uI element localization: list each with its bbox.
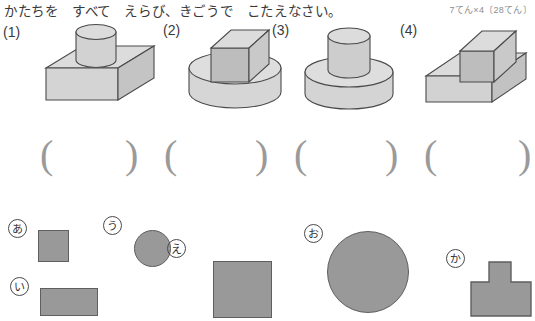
answer-paren-close-1: ) — [125, 135, 138, 175]
answer-paren-open-3: ( — [294, 135, 307, 175]
solid-figure-4-box-on-box — [420, 20, 535, 116]
answer-paren-close-2: ) — [255, 135, 268, 175]
solid-figure-1-cylinder-on-box — [34, 20, 164, 114]
choice-shape-a-square — [38, 230, 69, 262]
choice-label-i: い — [10, 277, 29, 296]
choice-label-e: え — [167, 239, 186, 258]
choice-shape-o-circle — [327, 231, 409, 313]
choice-shape-ka-tee — [468, 260, 533, 321]
score-annotation: 7てん×4〔28てん〕 — [449, 3, 532, 16]
choice-label-ka: か — [446, 249, 465, 268]
choice-shape-u-circle — [134, 230, 171, 267]
choice-shape-e-square — [213, 261, 272, 318]
header: かたちを すべて えらび、きごうで こたえなさい。 7てん×4〔28てん〕 — [0, 0, 535, 20]
solid-2-svg — [183, 20, 313, 115]
solid-3-svg — [297, 22, 422, 117]
choice-label-u: う — [103, 216, 122, 235]
solid-figure-2-box-on-cylinder — [183, 20, 313, 119]
worksheet-page: かたちを すべて えらび、きごうで こたえなさい。 7てん×4〔28てん〕 (1… — [0, 0, 535, 321]
tee-svg — [468, 260, 533, 318]
choice-label-o: お — [304, 224, 323, 243]
solid-1-svg — [34, 20, 164, 110]
choice-shape-i-rectangle — [40, 288, 98, 316]
answer-paren-close-4: ) — [518, 135, 531, 175]
answer-paren-close-3: ) — [385, 135, 398, 175]
answer-paren-open-4: ( — [424, 135, 437, 175]
solid-figure-3-cylinder-on-cylinder — [297, 22, 422, 121]
problem-number-1: (1) — [3, 24, 20, 40]
question-prompt: かたちを すべて えらび、きごうで こたえなさい。 — [4, 0, 342, 20]
solid-4-svg — [420, 20, 535, 112]
answer-paren-open-2: ( — [164, 135, 177, 175]
choice-label-a: あ — [8, 219, 27, 238]
answer-paren-open-1: ( — [40, 135, 53, 175]
problem-number-2: (2) — [163, 22, 180, 38]
